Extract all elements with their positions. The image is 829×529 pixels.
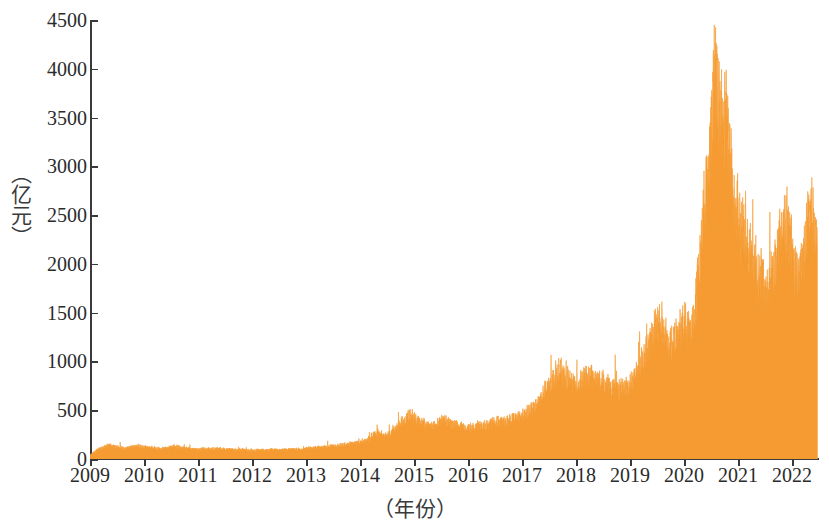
x-tick-mark	[684, 459, 686, 466]
y-tick-mark	[91, 264, 98, 266]
y-tick-mark	[91, 69, 98, 71]
x-tick-mark	[252, 459, 254, 466]
plot-area	[90, 20, 819, 459]
y-tick-mark	[91, 20, 98, 22]
y-tick-mark	[91, 410, 98, 412]
y-tick-mark	[91, 166, 98, 168]
x-tick-mark	[468, 459, 470, 466]
x-axis-title: （年份）	[0, 492, 829, 522]
turnover-area-series	[90, 20, 819, 459]
y-tick-label: 3000	[31, 156, 87, 176]
x-tick-mark	[90, 459, 92, 466]
y-tick-mark	[91, 118, 98, 120]
x-tick-mark	[360, 459, 362, 466]
y-tick-label: 3500	[31, 108, 87, 128]
series-fill-path	[90, 25, 817, 459]
x-axis-tick-labels: 2009201020112012201320142015201620172018…	[0, 462, 829, 492]
y-tick-mark	[91, 459, 98, 461]
x-tick-mark	[198, 459, 200, 466]
x-tick-mark	[630, 459, 632, 466]
y-tick-label: 1000	[31, 351, 87, 371]
x-tick-mark	[414, 459, 416, 466]
y-tick-label: 2500	[31, 205, 87, 225]
y-tick-mark	[91, 215, 98, 217]
y-tick-label: 500	[31, 400, 87, 420]
y-tick-label: 1500	[31, 303, 87, 323]
y-tick-mark	[91, 313, 98, 315]
y-tick-label: 2000	[31, 254, 87, 274]
y-tick-label: 4500	[31, 10, 87, 30]
y-tick-mark	[91, 361, 98, 363]
chart-figure: （亿元） 45004000350030002500200015001000500…	[0, 0, 829, 529]
x-tick-mark	[792, 459, 794, 466]
x-tick-mark	[306, 459, 308, 466]
y-tick-label: 4000	[31, 59, 87, 79]
y-axis-tick-labels: 450040003500300025002000150010005000	[27, 0, 87, 529]
x-tick-mark	[522, 459, 524, 466]
x-tick-mark	[738, 459, 740, 466]
x-tick-mark	[144, 459, 146, 466]
x-tick-mark	[576, 459, 578, 466]
